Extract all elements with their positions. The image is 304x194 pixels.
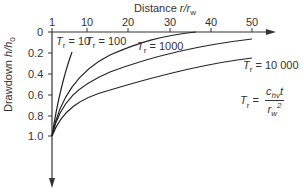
y-tick-1-0: 1.0 [28,131,43,142]
x-tick-30: 30 [164,17,176,28]
label-tr-100: Tr = 100 [86,36,126,50]
y-tick-0-4: 0.4 [28,69,43,80]
y-axis-label: Drawdown h/h0 [2,37,17,112]
label-tr-1000: Tr = 1000 [137,41,183,55]
x-axis-label: Distance r/rw [134,3,196,17]
y-tick-0-6: 0.6 [28,90,43,101]
curve-tr-10000 [52,58,252,136]
y-axis-arrow-icon [49,178,55,188]
x-axis-arrow-icon [266,29,276,35]
label-tr-10000: Tr = 10 000 [243,60,299,74]
x-tick-10: 10 [81,17,93,28]
x-tick-50: 50 [246,17,258,28]
y-tick-0-2: 0.2 [28,48,43,59]
x-tick-40: 40 [205,17,217,28]
y-tick-0-8: 0.8 [28,111,43,122]
y-tick-0: 0 [37,27,43,38]
formula-tr: Tr = chvtrw2 [240,85,284,118]
x-tick-1: 1 [49,17,55,28]
x-tick-20: 20 [122,17,134,28]
